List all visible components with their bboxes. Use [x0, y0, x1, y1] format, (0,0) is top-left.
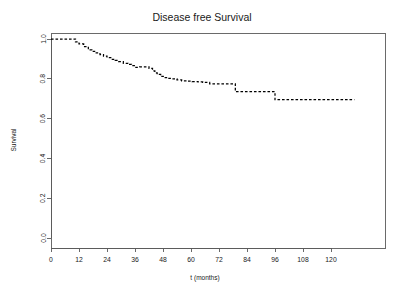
x-axis-tick-label: 120	[325, 256, 337, 263]
y-axis-tick-label: 0.2	[40, 193, 47, 203]
chart-figure: Disease free Survival 0.00.20.40.60.81.0…	[0, 0, 405, 299]
y-axis-tick-label: 0.0	[40, 233, 47, 243]
x-axis-tick-label: 84	[243, 256, 251, 263]
x-axis-tick-label: 36	[131, 256, 139, 263]
x-axis-title: t (months)	[190, 274, 219, 282]
y-axis-tick-label: 0.6	[40, 114, 47, 124]
x-axis-tick-label: 108	[297, 256, 309, 263]
x-axis-tick-label: 12	[75, 256, 83, 263]
x-axis-tick-label: 72	[215, 256, 223, 263]
x-axis-tick-label: 24	[103, 256, 111, 263]
survival-plot-svg: Disease free Survival 0.00.20.40.60.81.0…	[0, 0, 405, 299]
figure-background	[0, 0, 405, 299]
chart-title: Disease free Survival	[152, 11, 251, 23]
x-axis-tick-label: 0	[49, 256, 53, 263]
y-axis-tick-label: 1.0	[40, 34, 47, 44]
y-axis-title: Survival	[10, 128, 17, 152]
y-axis-tick-label: 0.8	[40, 74, 47, 84]
x-axis-tick-label: 60	[187, 256, 195, 263]
x-axis-tick-label: 48	[159, 256, 167, 263]
y-axis-tick-label: 0.4	[40, 153, 47, 163]
x-axis-tick-label: 96	[271, 256, 279, 263]
